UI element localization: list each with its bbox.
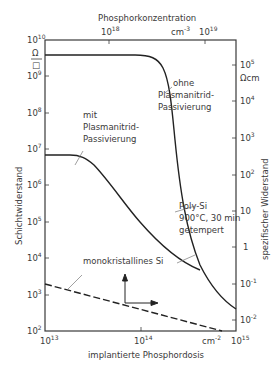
- svg-text:105: 105: [240, 58, 255, 70]
- svg-text:103: 103: [240, 131, 255, 143]
- svg-text:10-1: 10-1: [240, 277, 257, 289]
- svg-text:getempert: getempert: [179, 225, 225, 235]
- top-tick-1e19: 1019: [199, 25, 218, 37]
- top-tick-1e18: 1018: [101, 25, 120, 37]
- svg-text:1010: 1010: [27, 33, 46, 45]
- svg-text:109: 109: [27, 69, 42, 81]
- svg-text:105: 105: [27, 215, 42, 227]
- curve-monokristallin-si: [45, 284, 222, 331]
- right-axis-tick-labels: 105 104 103 102 10 1 10-1 10-2: [240, 58, 257, 325]
- curve-mit-passivierung: [45, 155, 200, 270]
- svg-text:104: 104: [27, 251, 42, 263]
- svg-text:ohne: ohne: [173, 78, 194, 88]
- annotation-monokristallin: monokristallines Si: [83, 256, 163, 266]
- svg-text:10-2: 10-2: [240, 313, 257, 325]
- bottom-unit: cm-2: [202, 334, 221, 346]
- chart: Phosphorkonzentration 1018 cm-3 1019 101…: [0, 0, 277, 369]
- left-unit-numerator: Ω: [32, 48, 39, 58]
- svg-text:104: 104: [240, 94, 255, 106]
- annotation-ohne: ohne Plasmanitrid- Passivierung: [158, 78, 214, 112]
- left-axis-title: Schichtwiderstand: [14, 167, 24, 245]
- svg-text:1: 1: [243, 242, 248, 252]
- right-unit: Ωcm: [240, 73, 259, 83]
- plot-frame: [45, 40, 236, 331]
- right-axis-ticks: [232, 65, 236, 320]
- bottom-axis-title: implantierte Phosphordosis: [88, 350, 205, 360]
- top-unit: cm-3: [171, 25, 190, 37]
- svg-text:Plasmanitrid-: Plasmanitrid-: [83, 122, 139, 132]
- svg-text:103: 103: [27, 288, 42, 300]
- svg-text:1015: 1015: [231, 334, 250, 346]
- axis-arrows: [123, 274, 159, 306]
- svg-text:Poly-Si: Poly-Si: [179, 201, 207, 211]
- annotation-poly-si: Poly-Si 900°C, 30 min getempert: [179, 201, 240, 235]
- left-axis-tick-labels: 1010 109 108 107 106 105 104 103 102: [27, 33, 46, 336]
- right-axis-title: spezifischer Widerstand: [260, 158, 270, 260]
- svg-text:Plasmanitrid-: Plasmanitrid-: [158, 90, 214, 100]
- svg-text:106: 106: [27, 178, 42, 190]
- svg-text:102: 102: [240, 168, 255, 180]
- svg-text:102: 102: [27, 324, 42, 336]
- top-axis-title: Phosphorkonzentration: [98, 13, 196, 23]
- svg-text:900°C, 30 min: 900°C, 30 min: [179, 213, 240, 223]
- svg-text:107: 107: [27, 142, 42, 154]
- svg-text:1013: 1013: [40, 334, 59, 346]
- svg-text:108: 108: [27, 106, 42, 118]
- svg-text:Passivierung: Passivierung: [158, 102, 211, 112]
- svg-text:1014: 1014: [134, 334, 153, 346]
- left-unit-denominator: □: [32, 60, 40, 70]
- svg-text:Passivierung: Passivierung: [83, 134, 136, 144]
- annotation-mit: mit Plasmanitrid- Passivierung: [83, 110, 139, 144]
- svg-text:10: 10: [240, 206, 251, 216]
- svg-text:mit: mit: [83, 110, 98, 120]
